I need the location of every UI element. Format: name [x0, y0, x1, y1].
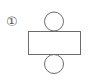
top-circle-base: [45, 12, 64, 31]
figure-label: ①: [6, 14, 18, 29]
lateral-rectangle: [29, 32, 81, 55]
bottom-circle-base: [45, 55, 64, 74]
cylinder-net-diagram: ①: [0, 0, 90, 82]
